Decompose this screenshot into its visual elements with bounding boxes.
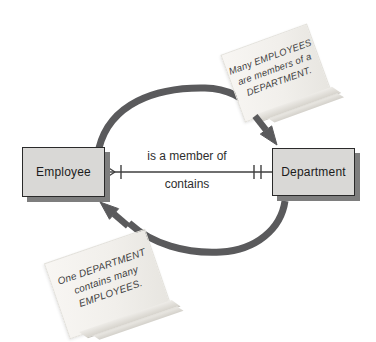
relationship-label-top: is a member of: [127, 149, 247, 163]
relationship-label-bottom: contains: [127, 177, 247, 191]
entity-department-label: Department: [281, 165, 346, 179]
cycle-arrow-bottom-arc: [129, 201, 285, 252]
cycle-arrow-top-arc: [99, 88, 252, 148]
entity-department: Department: [272, 148, 355, 196]
entity-employee-label: Employee: [36, 165, 91, 179]
er-diagram-canvas: Employee Department is a member of conta…: [0, 0, 376, 342]
entity-employee: Employee: [22, 147, 105, 197]
